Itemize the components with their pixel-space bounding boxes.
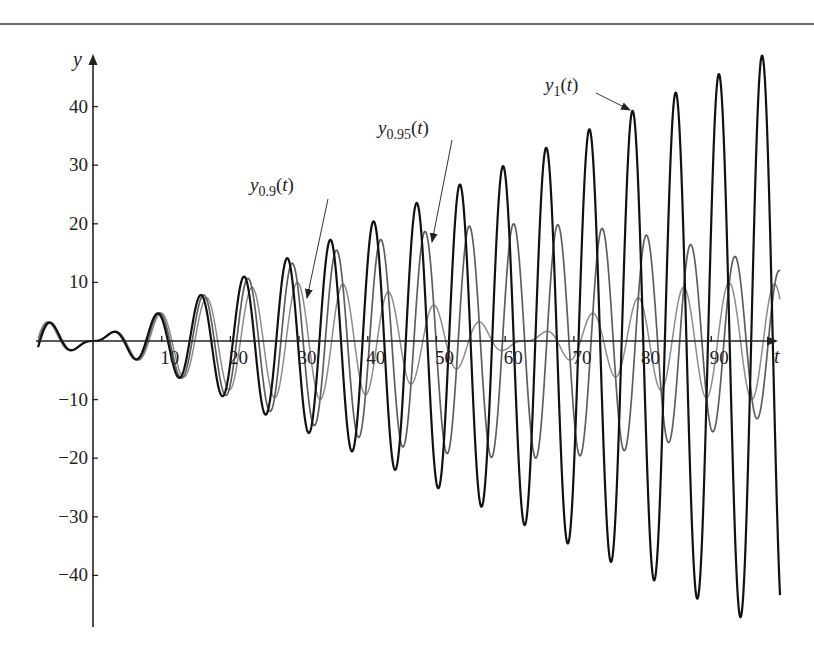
y-tick-label: 40 xyxy=(69,96,88,117)
y-tick-label: −40 xyxy=(58,564,88,585)
annotation-label: y0.95(t) xyxy=(376,117,429,142)
annotation-arrow-icon xyxy=(596,93,630,110)
x-tick-label: 50 xyxy=(435,347,454,368)
x-tick-label: 40 xyxy=(366,347,385,368)
x-tick-label: 90 xyxy=(710,347,729,368)
annotation-y1-t: y1(t) xyxy=(543,74,630,110)
x-axis-label: t xyxy=(774,345,780,367)
line-chart: ty 102030405060708090−40−30−20−101020304… xyxy=(0,0,814,652)
y-tick-label: −20 xyxy=(58,447,88,468)
y-tick-label: −10 xyxy=(58,389,88,410)
y-tick-label: −30 xyxy=(58,506,88,527)
annotation-label: y1(t) xyxy=(543,74,578,99)
y-tick-label: 30 xyxy=(69,154,88,175)
x-tick-label: 20 xyxy=(229,347,248,368)
x-tick-label: 60 xyxy=(504,347,523,368)
y-tick-label: 10 xyxy=(69,271,88,292)
annotation-arrow-icon xyxy=(432,140,452,242)
y-tick-label: 20 xyxy=(69,213,88,234)
curve-annotations: y1(t)y0.95(t)y0.9(t) xyxy=(248,74,630,298)
x-tick-label: 10 xyxy=(160,347,179,368)
y-axis-label: y xyxy=(71,48,82,71)
y-axis-arrow-icon xyxy=(89,54,98,65)
x-tick-label: 80 xyxy=(641,347,660,368)
x-tick-label: 70 xyxy=(572,347,591,368)
annotation-label: y0.9(t) xyxy=(248,174,294,199)
x-tick-label: 30 xyxy=(298,347,317,368)
annotation-arrow-icon xyxy=(307,199,328,298)
